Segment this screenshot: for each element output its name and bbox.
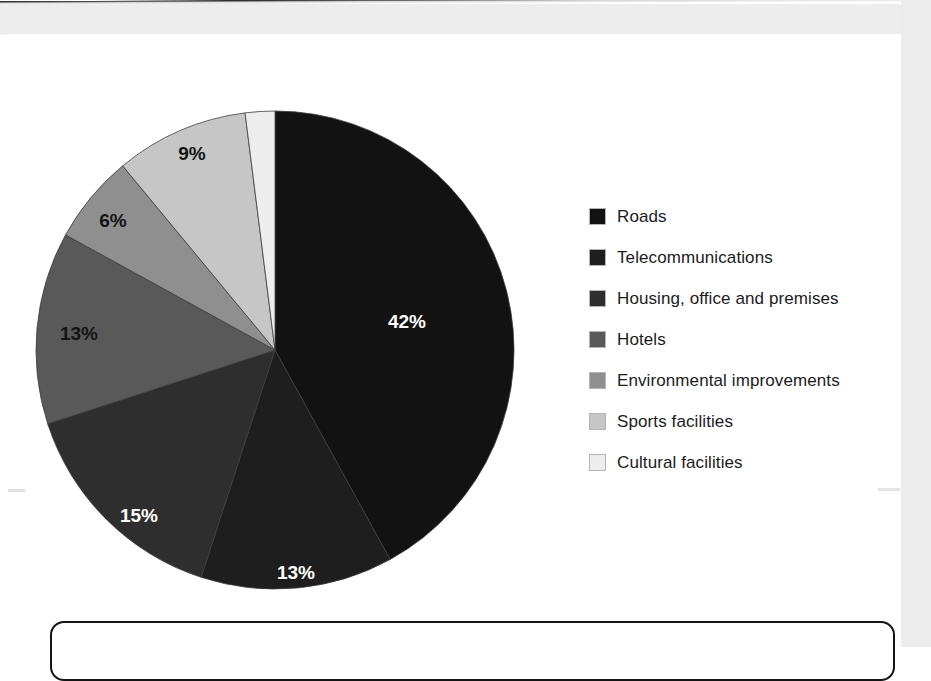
legend-item[interactable]: Roads [589, 196, 889, 237]
legend-item-label: Cultural facilities [617, 453, 743, 473]
legend-item[interactable]: Sports facilities [589, 401, 889, 442]
pie-chart-plot-area: 42%13%15%13%6%9%2% [35, 110, 515, 590]
legend-item[interactable]: Environmental improvements [589, 360, 889, 401]
pie-slice-value-label: 42% [388, 311, 426, 332]
legend-item-label: Hotels [617, 330, 666, 350]
legend-item-label: Telecommunications [617, 248, 773, 268]
legend-item-label: Housing, office and premises [617, 289, 839, 309]
legend-swatch-icon [589, 413, 606, 430]
legend-item[interactable]: Housing, office and premises [589, 278, 889, 319]
pie-slice-value-label: 9% [178, 143, 206, 164]
legend-swatch-icon [589, 331, 606, 348]
legend-item[interactable]: Cultural facilities [589, 442, 889, 483]
pie-slice-value-label: 13% [60, 323, 98, 344]
pie-slice-group [36, 111, 514, 589]
legend-swatch-icon [589, 208, 606, 225]
legend-item-label: Sports facilities [617, 412, 733, 432]
chart-legend: RoadsTelecommunicationsHousing, office a… [589, 196, 889, 483]
legend-item-label: Environmental improvements [617, 371, 840, 391]
legend-swatch-icon [589, 290, 606, 307]
legend-swatch-icon [589, 372, 606, 389]
pie-slice-value-label: 6% [99, 210, 127, 231]
pie-slice-value-label: 15% [120, 505, 158, 526]
legend-swatch-icon [589, 454, 606, 471]
legend-item[interactable]: Hotels [589, 319, 889, 360]
pie-slice-value-label: 13% [277, 562, 315, 583]
pie-chart-svg: 42%13%15%13%6%9%2% [35, 110, 515, 590]
callout-box [50, 621, 895, 681]
legend-swatch-icon [589, 249, 606, 266]
legend-item[interactable]: Telecommunications [589, 237, 889, 278]
legend-item-label: Roads [617, 207, 667, 227]
